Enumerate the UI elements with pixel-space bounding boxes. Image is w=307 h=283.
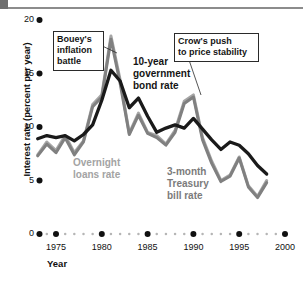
callout-bouey-inflation-battle: Bouey's inflation battle [53,31,104,71]
x-tick-dot-minor [119,233,122,236]
x-tick-dot-minor [265,233,268,236]
x-tick-dot-major [236,231,242,237]
line-chart-plot [0,0,307,283]
x-tick-dot-minor [247,233,250,236]
callout-crow-price-stability: Crow's push to price stability [174,33,259,62]
x-tick-dot-minor [210,233,213,236]
y-tick-dot [37,124,43,130]
x-tick-dot-minor [91,233,94,236]
series-label-treasury: 3-month Treasury bill rate [167,166,209,201]
x-tick-dot-minor [165,233,168,236]
x-tick-dot-minor [137,233,140,236]
x-tick-dot-major [282,231,288,237]
x-tick-dot-minor [46,233,49,236]
x-tick-dot-minor [110,233,113,236]
x-tick-dot-minor [174,233,177,236]
x-tick-dot-minor [275,233,278,236]
x-tick-dot-minor [229,233,232,236]
x-tick-dot-minor [183,233,186,236]
y-tick-dot [37,17,43,23]
y-axis-title: Interest rate (percent per year) [21,30,32,190]
x-tick-dot-minor [256,233,259,236]
x-tick-label: 1975 [40,242,72,252]
y-tick-label: 20 [12,14,34,24]
x-tick-dot-major [190,231,196,237]
x-tick-label: 1985 [132,242,164,252]
x-tick-dot-minor [73,233,76,236]
y-tick-label: 0 [12,228,34,238]
x-tick-dot-minor [220,233,223,236]
x-tick-dot-minor [128,233,131,236]
x-tick-dot-major [53,231,59,237]
x-tick-label: 1995 [223,242,255,252]
x-tick-dot-minor [64,233,67,236]
y-tick-dot [37,231,43,237]
chart-figure: 05101520 197519801985199019952000 Intere… [0,0,307,283]
series-label-overnight: Overnight loans rate [73,157,120,181]
y-tick-dot [37,71,43,77]
x-tick-dot-major [145,231,151,237]
x-tick-label: 1980 [86,242,118,252]
x-tick-label: 2000 [269,242,301,252]
x-tick-label: 1990 [177,242,209,252]
y-tick-dot [37,178,43,184]
x-axis-title: Year [47,258,67,269]
x-tick-dot-minor [82,233,85,236]
x-tick-dot-major [99,231,105,237]
x-tick-dot-minor [156,233,159,236]
x-tick-dot-minor [201,233,204,236]
